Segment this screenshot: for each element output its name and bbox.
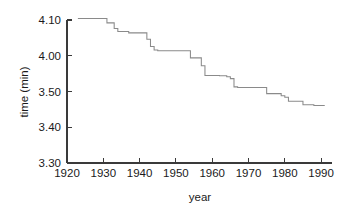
x-axis-tick-labels: 19201930194019501960197019801990	[54, 167, 334, 179]
y-tick-label: 3.40	[39, 121, 61, 133]
chart-container: 4.104.003.503.403.30 1920193019401950196…	[0, 0, 350, 217]
x-tick-label: 1970	[236, 167, 262, 179]
record-time-step-line	[78, 19, 325, 106]
x-axis-title: year	[189, 191, 212, 203]
x-axis-ticks	[67, 158, 321, 163]
y-tick-label: 4.10	[39, 14, 61, 26]
x-tick-label: 1960	[199, 167, 225, 179]
y-axis-tick-labels: 4.104.003.503.403.30	[39, 14, 61, 169]
y-axis-title: time (min)	[18, 66, 30, 117]
y-tick-label: 4.00	[39, 50, 61, 62]
x-tick-label: 1990	[308, 167, 334, 179]
mile-record-step-chart: 4.104.003.503.403.30 1920193019401950196…	[0, 0, 350, 217]
x-tick-label: 1980	[272, 167, 298, 179]
y-tick-label: 3.50	[39, 86, 61, 98]
x-tick-label: 1930	[91, 167, 117, 179]
x-tick-label: 1920	[54, 167, 80, 179]
x-tick-label: 1940	[127, 167, 153, 179]
x-tick-label: 1950	[163, 167, 189, 179]
y-axis-ticks	[67, 20, 72, 163]
